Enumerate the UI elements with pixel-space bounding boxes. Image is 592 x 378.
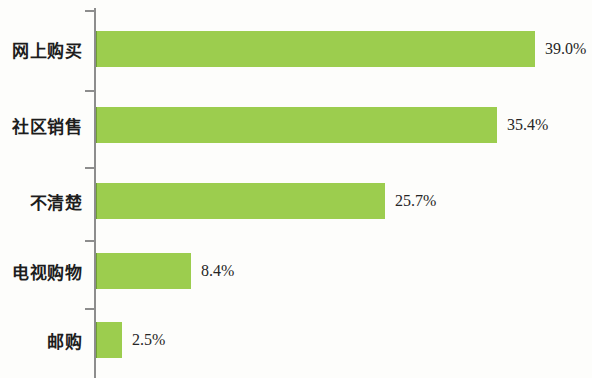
axis-tick (85, 90, 94, 92)
category-label: 电视购物 (12, 259, 82, 284)
axis-tick (85, 308, 94, 310)
bar (96, 322, 122, 358)
axis-tick (85, 10, 94, 12)
bar-row: 社区销售 35.4% (0, 105, 592, 145)
axis-tick (85, 240, 94, 242)
bar (96, 31, 535, 67)
bar-row: 网上购买 39.0% (0, 29, 592, 69)
bar-row: 电视购物 8.4% (0, 251, 592, 291)
category-label: 社区销售 (12, 113, 82, 138)
category-label: 不清楚 (30, 189, 83, 214)
bar (96, 253, 191, 289)
axis-tick (85, 167, 94, 169)
bar (96, 183, 385, 219)
bar-value-label: 39.0% (545, 40, 586, 58)
bar-row: 邮购 2.5% (0, 320, 592, 360)
category-label: 邮购 (47, 328, 82, 353)
bar-chart: 网上购买 39.0% 社区销售 35.4% 不清楚 25.7% 电视购物 8.4… (0, 0, 592, 378)
bar-value-label: 35.4% (507, 116, 548, 134)
bar (96, 107, 497, 143)
bar-value-label: 8.4% (201, 262, 234, 280)
category-label: 网上购买 (12, 37, 82, 62)
bar-row: 不清楚 25.7% (0, 181, 592, 221)
bar-value-label: 25.7% (395, 192, 436, 210)
bar-value-label: 2.5% (132, 331, 165, 349)
